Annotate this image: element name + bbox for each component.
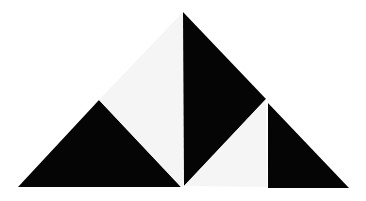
tangram-figure (0, 0, 366, 201)
